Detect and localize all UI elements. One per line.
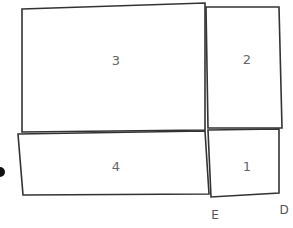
shape-4-label: 4: [112, 159, 120, 174]
shape-1-label: 1: [243, 159, 251, 174]
shape-2: [206, 7, 282, 128]
edge-dot: [0, 167, 5, 177]
shape-3: [22, 3, 205, 132]
diagram-canvas: 3 2 4 1 E D: [0, 0, 293, 228]
shape-3-label: 3: [112, 53, 120, 68]
vertex-label-d: D: [279, 203, 288, 217]
vertex-label-e: E: [211, 208, 219, 222]
shape-2-label: 2: [243, 52, 251, 67]
